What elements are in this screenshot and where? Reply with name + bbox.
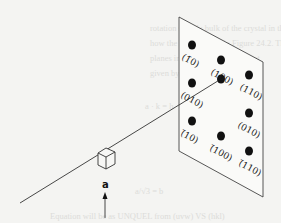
spot-010-right (245, 109, 253, 118)
spot-bar110-right (245, 147, 253, 156)
spot-bar110 (188, 117, 196, 126)
crystal-cube-icon (98, 148, 115, 169)
beam-label: a (102, 179, 109, 190)
spot-1-10 (188, 41, 196, 50)
spot-100 (217, 56, 225, 65)
spot-110 (245, 71, 253, 80)
spot-bar100 (217, 132, 225, 141)
spot-010 (188, 79, 196, 88)
laue-diffraction-diagram: (1̄0) (100) (110) (010) (010) (̄10) (̄10… (0, 0, 281, 223)
arrow-up-icon (103, 192, 108, 199)
